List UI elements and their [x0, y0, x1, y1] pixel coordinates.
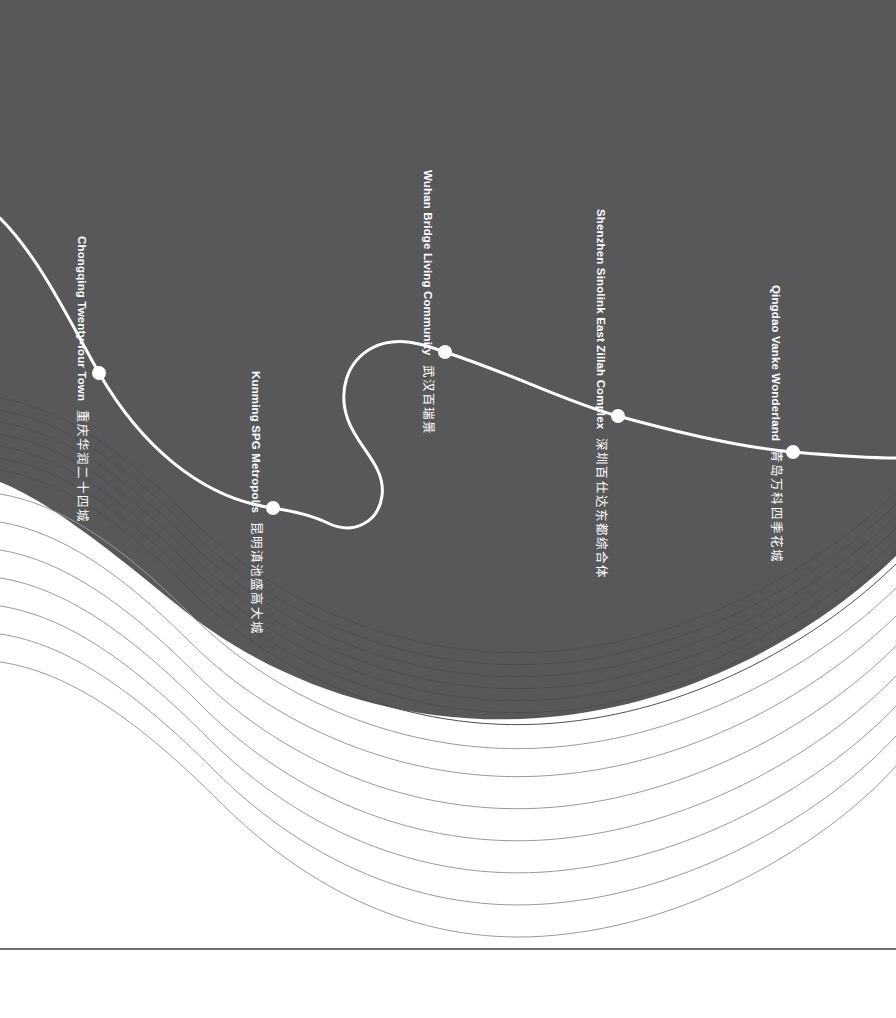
poster-page: Chongqing Twenty-four Town重庆华润二十四城 Kunmi…: [0, 0, 896, 1018]
dark-panel: [0, 0, 896, 719]
milestone-label-shenzhen[interactable]: Shenzhen Sinolink East Zillah Complex深圳百…: [593, 209, 612, 579]
milestone-label-kunming[interactable]: Kunming SPG Metropolis昆明滇池盛高大城: [248, 371, 267, 635]
milestone-label-chongqing-en: Chongqing Twenty-four Town: [76, 236, 88, 401]
milestone-dot-wuhan: [438, 345, 452, 359]
milestone-label-shenzhen-cn: 深圳百仕达东都综合体: [594, 438, 608, 579]
milestone-dot-kunming: [266, 501, 280, 515]
milestone-label-qingdao[interactable]: Qingdao Vanke Wonderland青岛万科四季花城: [768, 285, 787, 563]
milestone-dot-shenzhen: [611, 409, 625, 423]
milestone-label-kunming-en: Kunming SPG Metropolis: [250, 371, 262, 513]
milestone-label-wuhan[interactable]: Wuhan Bridge Living Community武汉百瑞景: [420, 170, 439, 435]
milestone-label-wuhan-en: Wuhan Bridge Living Community: [422, 170, 434, 356]
timeline-artwork: [0, 0, 896, 1018]
milestone-label-chongqing-cn: 重庆华润二十四城: [75, 410, 89, 523]
milestone-label-wuhan-cn: 武汉百瑞景: [421, 365, 435, 436]
milestone-label-qingdao-cn: 青岛万科四季花城: [769, 450, 783, 563]
milestone-dot-chongqing: [92, 366, 106, 380]
milestone-label-kunming-cn: 昆明滇池盛高大城: [249, 522, 263, 635]
footer-divider: [0, 948, 896, 950]
milestone-label-chongqing[interactable]: Chongqing Twenty-four Town重庆华润二十四城: [74, 236, 93, 523]
milestone-label-qingdao-en: Qingdao Vanke Wonderland: [770, 285, 782, 441]
milestone-label-shenzhen-en: Shenzhen Sinolink East Zillah Complex: [595, 209, 607, 429]
milestone-dot-qingdao: [786, 445, 800, 459]
